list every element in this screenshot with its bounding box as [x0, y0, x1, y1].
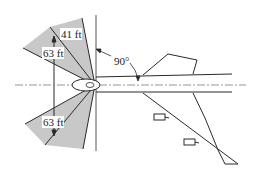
aircraft-clearance-diagram: [0, 0, 261, 177]
fuselage: [96, 74, 232, 92]
label-63ft-lower: 63 ft: [42, 116, 64, 128]
engine-outer: [184, 139, 195, 145]
label-90-degrees: 90°: [113, 55, 130, 67]
engine-inner: [154, 114, 165, 120]
label-63ft-upper: 63 ft: [42, 47, 64, 59]
lower-wing: [143, 93, 238, 164]
label-41ft: 41 ft: [60, 28, 82, 40]
upper-wing: [143, 54, 197, 75]
